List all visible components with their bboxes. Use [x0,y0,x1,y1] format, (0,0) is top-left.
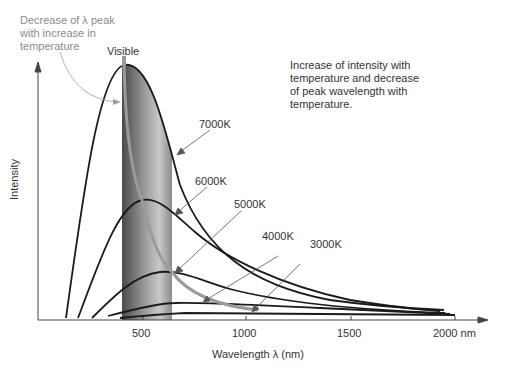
increase-note-line: temperature. [290,98,419,111]
visible-label: Visible [107,45,139,58]
label-7000k: 7000K [199,118,231,131]
x-axis-label: Wavelength λ (nm) [212,348,304,361]
label-4000k: 4000K [262,230,294,243]
decrease-note-line: with increase in [20,27,115,40]
visible-band [122,60,172,320]
increase-note: Increase of intensity with temperature a… [290,59,419,111]
increase-note-line: temperature and decrease [290,72,419,85]
y-axis-label: Intensity [8,159,21,200]
x-tick-1000: 1000 [232,327,256,340]
blackbody-chart [0,0,510,376]
x-tick-500: 500 [132,327,150,340]
x-tick-2000: 2000 nm [433,327,476,340]
decrease-note: Decrease of λ peak with increase in temp… [20,14,115,53]
label-5000k: 5000K [234,198,266,211]
label-3000k: 3000K [310,238,342,251]
label-arrows [175,130,300,312]
increase-note-line: Increase of intensity with [290,59,419,72]
decrease-note-line: Decrease of λ peak [20,14,115,27]
label-6000k: 6000K [195,175,227,188]
increase-note-line: of peak wavelength with [290,85,419,98]
decrease-note-line: temperature [20,40,115,53]
x-tick-1500: 1500 [337,327,361,340]
